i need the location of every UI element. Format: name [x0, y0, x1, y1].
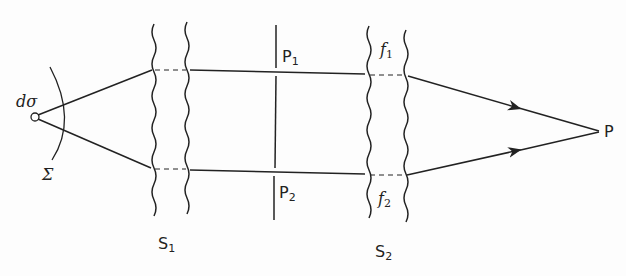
- ray-upper-to-p: [408, 76, 515, 107]
- label-s1: S1: [158, 234, 175, 255]
- sigma-surface-arc: [50, 67, 65, 160]
- label-s2: S2: [375, 242, 392, 263]
- label-p1: P1: [282, 47, 299, 68]
- source-point-icon: [31, 113, 39, 121]
- ray-lower-to-p-tail: [512, 132, 599, 152]
- ray-lower-to-p: [407, 151, 515, 175]
- label-p2: P2: [279, 183, 296, 204]
- ray-upper-to-p-tail: [512, 106, 599, 131]
- screen-s2-back: [404, 30, 408, 222]
- beam-upper: [190, 70, 365, 74]
- ray-source-lower: [38, 119, 151, 168]
- plane-p1p2-middle-segment: [275, 76, 276, 168]
- screen-s2-front: [367, 26, 371, 218]
- optics-diagram: dσ Σ P1 P2 f1 f2 S1 S2 P: [0, 0, 626, 276]
- label-dsigma: dσ: [16, 92, 38, 111]
- label-sigma: Σ: [41, 165, 54, 184]
- screen-s1-front: [152, 24, 156, 216]
- label-f2: f2: [377, 189, 391, 210]
- label-f1: f1: [379, 40, 393, 61]
- label-observation-p: P: [604, 122, 614, 141]
- beam-lower: [190, 170, 365, 174]
- screen-s1-back: [185, 22, 189, 214]
